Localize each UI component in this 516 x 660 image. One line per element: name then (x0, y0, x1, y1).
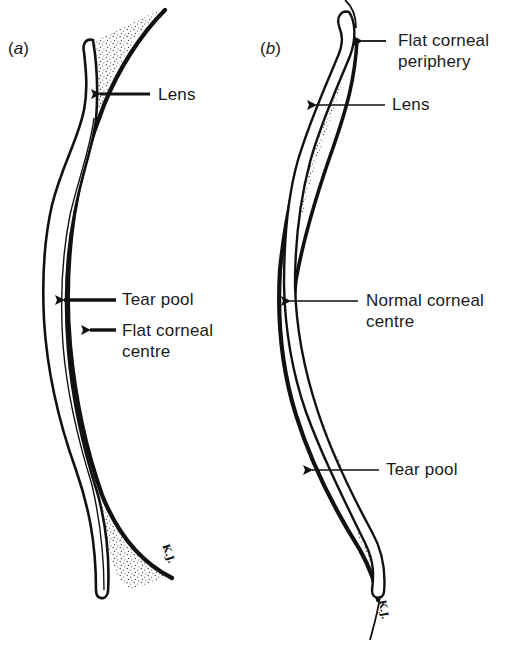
panel-b-tear-pool (287, 35, 377, 590)
label-flat-corneal-periphery-b: Flat corneal periphery (398, 30, 489, 72)
label-lens-a: Lens (158, 84, 196, 105)
label-tear-pool-b: Tear pool (386, 459, 458, 480)
label-tear-pool-a: Tear pool (122, 289, 194, 310)
label-normal-corneal-centre-b: Normal corneal centre (366, 290, 484, 332)
panel-label-a: (a) (8, 39, 29, 59)
panel-label-b: (b) (260, 39, 281, 59)
label-lens-b: Lens (392, 94, 430, 115)
label-flat-corneal-centre-a: Flat corneal centre (122, 320, 213, 362)
